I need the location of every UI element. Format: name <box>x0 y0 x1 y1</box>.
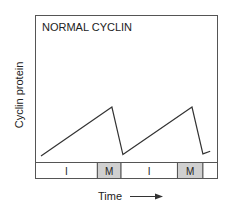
phase-segment-next-interphase <box>203 163 218 179</box>
time-arrow-head-icon <box>155 194 163 200</box>
phase-label-interphase: I <box>65 166 68 177</box>
plot-frame <box>36 16 218 179</box>
diagram-title: NORMAL CYCLIN <box>42 21 132 33</box>
phase-label-mitosis: M <box>105 166 113 177</box>
phase-label-interphase: I <box>148 166 151 177</box>
phase-label-mitosis: M <box>186 166 194 177</box>
cell-cycle-phase-strip: IMIM <box>36 163 218 179</box>
cyclin-diagram: NORMAL CYCLIN Cyclin protein IMIM Time <box>0 0 230 209</box>
cyclin-level-curve <box>41 107 210 156</box>
y-axis-label: Cyclin protein <box>13 62 25 129</box>
x-axis-label: Time <box>98 190 122 202</box>
